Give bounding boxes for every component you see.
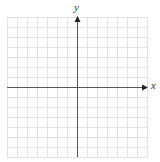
- y-axis-label: y: [74, 1, 79, 13]
- x-axis-label: x: [151, 79, 156, 91]
- coordinate-plane: [0, 0, 160, 162]
- y-axis-arrow-icon: [75, 16, 81, 22]
